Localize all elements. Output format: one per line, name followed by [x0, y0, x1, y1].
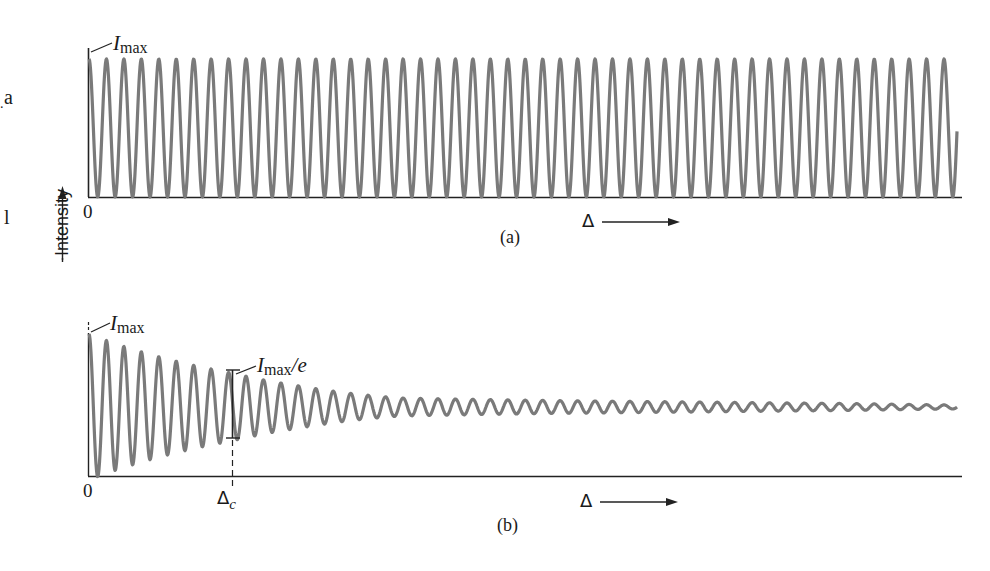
- margin-fragment-3: l: [4, 206, 10, 229]
- imax-over-e-label: Imax/e: [257, 353, 307, 379]
- panel-b-fringe-curve: [89, 334, 957, 477]
- margin-fragment-2: .: [0, 96, 4, 112]
- panel-b-arrow-head-icon: [666, 498, 678, 506]
- imax-subscript: max: [120, 39, 148, 56]
- panel-a-imax-leader: [91, 43, 112, 52]
- panel-b-imax-leader: [91, 323, 110, 332]
- coherence-length-label: Δc: [217, 487, 236, 513]
- panel-a-arrow-head-icon: [668, 218, 680, 226]
- delta-c-subscript: c: [229, 496, 236, 512]
- panel-b-caption: (b): [497, 515, 518, 536]
- imax-e-subscript: max: [264, 361, 292, 378]
- delta-c-symbol: Δ: [217, 487, 229, 508]
- imax-subscript: max: [117, 319, 145, 336]
- imax-e-symbol: I: [257, 353, 264, 377]
- panel-b-imax-label: Imax: [110, 311, 145, 337]
- margin-fragment-1: a: [4, 86, 13, 109]
- panel-a-x-axis-label: Δ: [582, 210, 594, 231]
- panel-b: [88, 322, 962, 506]
- panel-b-x-axis-label: Δ: [580, 490, 592, 511]
- imax-symbol: I: [113, 31, 120, 55]
- interference-figure: a . l Intensity Imax 0 Δ (a) Imax Imax/e…: [0, 0, 990, 571]
- figure-canvas: [0, 0, 990, 571]
- panel-a: [88, 43, 962, 226]
- y-axis-label: Intensity: [52, 189, 73, 256]
- panel-a-fringe-curve: [89, 59, 957, 197]
- panel-a-imax-label: Imax: [113, 31, 148, 57]
- panel-b-origin-label: 0: [83, 480, 93, 502]
- panel-a-caption: (a): [500, 227, 520, 248]
- imax-e-suffix: /e: [292, 353, 307, 377]
- panel-a-origin-label: 0: [83, 201, 93, 223]
- imax-symbol: I: [110, 311, 117, 335]
